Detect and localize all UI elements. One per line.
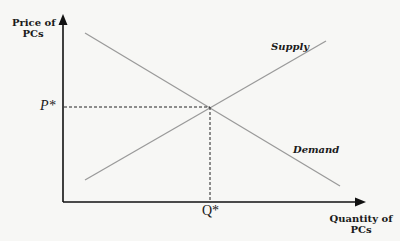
y-axis-arrow-icon bbox=[59, 14, 68, 25]
supply-label: Supply bbox=[271, 41, 309, 52]
equilibrium-price-label: P* bbox=[40, 98, 56, 114]
supply-demand-diagram bbox=[0, 0, 400, 241]
x-axis-arrow-icon bbox=[355, 198, 366, 207]
x-axis-title-line1: Quantity of bbox=[326, 213, 396, 224]
y-axis-title-line2: PCs bbox=[12, 28, 54, 39]
y-axis-title-line1: Price of bbox=[12, 17, 54, 28]
x-axis-title: Quantity of PCs bbox=[326, 213, 396, 235]
x-axis-title-line2: PCs bbox=[326, 224, 396, 235]
demand-curve bbox=[85, 33, 340, 186]
equilibrium-quantity-label: Q* bbox=[202, 203, 219, 219]
demand-label: Demand bbox=[293, 144, 339, 155]
supply-curve bbox=[85, 41, 326, 180]
y-axis-title: Price of PCs bbox=[12, 17, 54, 39]
